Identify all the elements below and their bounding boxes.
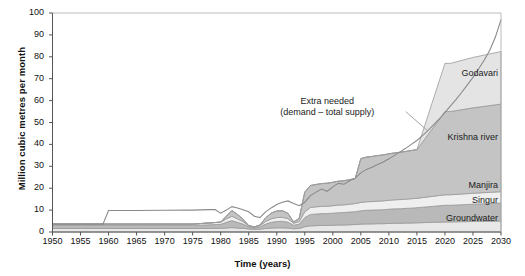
y-tick-20: 20: [18, 182, 44, 192]
series-label-manjira: Manjira: [468, 180, 498, 190]
x-axis-label: Time (years): [0, 258, 525, 269]
series-label-groundwater: Groundwater: [446, 213, 498, 223]
y-tick-40: 40: [18, 138, 44, 148]
y-tick-100: 100: [18, 7, 44, 17]
chart-figure: Million cubic metres per month Time (yea…: [0, 0, 525, 276]
y-tick-30: 30: [18, 160, 44, 170]
y-tick-80: 80: [18, 51, 44, 61]
series-label-singur: Singur: [472, 195, 498, 205]
stacked-area-plot: [0, 0, 525, 276]
y-tick-10: 10: [18, 204, 44, 214]
series-label-krishna-river: Krishna river: [447, 132, 498, 142]
y-tick-70: 70: [18, 73, 44, 83]
y-tick-60: 60: [18, 95, 44, 105]
annotation-line-2: (demand – total supply): [280, 107, 374, 118]
y-tick-0: 0: [18, 226, 44, 236]
y-tick-50: 50: [18, 117, 44, 127]
y-tick-90: 90: [18, 29, 44, 39]
series-label-godavari: Godavari: [461, 68, 498, 78]
x-tick-2030: 2030: [481, 236, 521, 246]
extra-needed-annotation: Extra needed (demand – total supply): [280, 96, 374, 118]
annotation-line-1: Extra needed: [280, 96, 374, 107]
